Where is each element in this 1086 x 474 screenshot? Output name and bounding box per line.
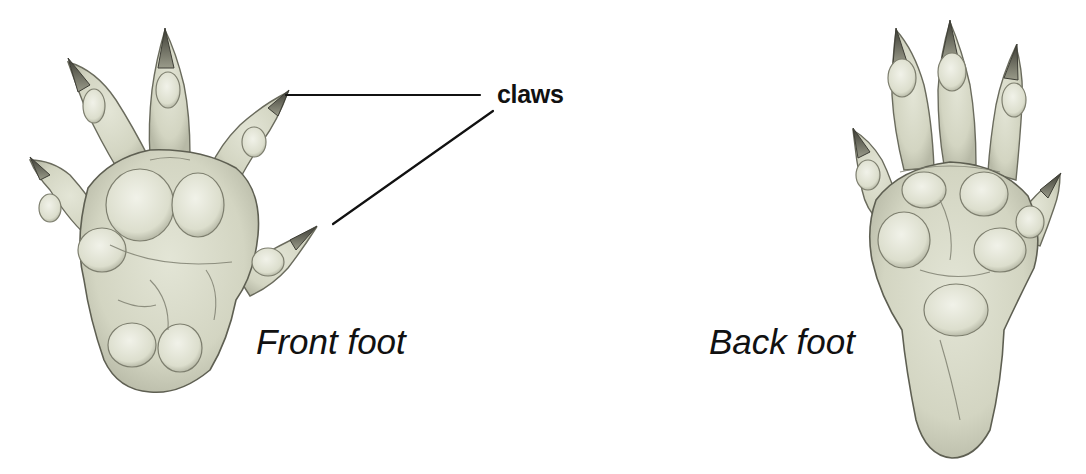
front-foot-label: Front foot <box>256 322 406 362</box>
back-foot-label: Back foot <box>709 322 855 362</box>
foot-illustrations <box>0 0 1086 474</box>
diagram-canvas: claws Front foot Back foot <box>0 0 1086 474</box>
claws-label: claws <box>497 80 564 109</box>
claw-callout-lines <box>286 95 493 224</box>
claw-callout-line-lower <box>333 111 493 224</box>
back-foot-figure <box>853 20 1061 458</box>
claw-icon <box>1004 44 1018 80</box>
